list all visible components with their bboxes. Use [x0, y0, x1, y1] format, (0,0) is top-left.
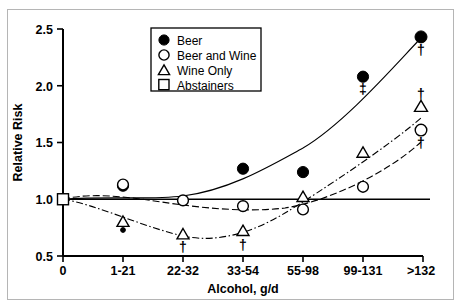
y-axis: 2.5 2.0 1.5 1.0 0.5 Relative Risk	[11, 23, 63, 264]
series-beer-and-wine-markers	[118, 124, 427, 215]
x-axis-title: Alcohol, g/d	[207, 282, 279, 296]
x-tick-label-33-54: 33-54	[227, 264, 259, 278]
series-wine-only-markers	[117, 100, 428, 239]
legend-label-beer: Beer	[177, 34, 202, 48]
ddagger-beer-99-131: ‡	[359, 81, 367, 97]
point-wine-1-21	[117, 216, 129, 226]
point-abstainers-0	[58, 194, 69, 205]
legend-label-wine-only: Wine Only	[177, 64, 232, 78]
dagger-wine-gt132: †	[417, 86, 425, 102]
relative-risk-scatter-chart: 2.5 2.0 1.5 1.0 0.5 Relative Risk 0 1-21…	[0, 0, 461, 307]
y-tick-label-2-5: 2.5	[36, 23, 53, 37]
y-tick-label-1-5: 1.5	[36, 136, 53, 150]
dagger-wine-22-32: †	[179, 239, 187, 255]
x-axis: 0 1-21 22-32 33-54 55-98 99-131 >132 Alc…	[60, 256, 436, 296]
x-tick-label-1-21: 1-21	[110, 264, 135, 278]
x-tick-label-gt132: >132	[407, 264, 435, 278]
x-tick-label-55-98: 55-98	[287, 264, 319, 278]
y-tick-label-2-0: 2.0	[36, 80, 53, 94]
point-beerwine-1-21	[118, 179, 129, 190]
point-beerwine-55-98	[298, 204, 309, 215]
point-beer-55-98	[297, 167, 308, 178]
chart-legend: Beer Beer and Wine Wine Only Abstainers	[151, 28, 261, 93]
x-tick-label-99-131: 99-131	[344, 264, 383, 278]
y-axis-title: Relative Risk	[11, 104, 25, 182]
legend-label-beer-and-wine: Beer and Wine	[177, 49, 257, 63]
point-beer-33-54	[237, 163, 248, 174]
y-tick-label-1-0: 1.0	[36, 193, 53, 207]
point-wine-22-32	[177, 229, 189, 239]
y-tick-label-0-5: 0.5	[36, 250, 53, 264]
legend-item-beer[interactable]: Beer	[159, 34, 202, 48]
point-wine-99-131	[357, 147, 369, 157]
dagger-beer-gt132: †	[417, 42, 425, 58]
open-circle-icon	[159, 50, 169, 60]
filled-circle-icon	[159, 35, 169, 45]
point-beerwine-99-131	[358, 181, 369, 192]
point-wine-55-98	[297, 191, 309, 201]
dagger-wine-33-54: †	[239, 237, 247, 253]
point-beer-small-1-21	[121, 228, 126, 233]
open-square-icon	[159, 80, 169, 90]
point-beerwine-33-54	[238, 201, 249, 212]
point-beerwine-22-32	[178, 195, 189, 206]
legend-label-abstainers: Abstainers	[177, 79, 234, 93]
figure-panel: 2.5 2.0 1.5 1.0 0.5 Relative Risk 0 1-21…	[0, 0, 461, 307]
dagger-beerwine-gt132: †	[417, 135, 425, 151]
x-tick-label-22-32: 22-32	[167, 264, 199, 278]
x-tick-label-0: 0	[60, 264, 67, 278]
